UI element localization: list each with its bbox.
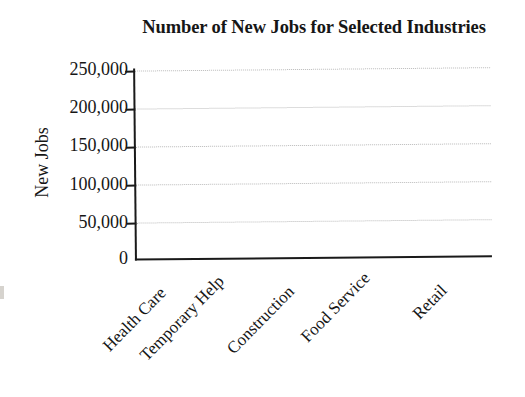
scan-artifact [0,286,4,299]
x-axis-tick-labels: Health Care Temporary Help Construction … [0,0,525,397]
x-tick-label-retail: Retail [409,281,450,322]
x-tick-label-temporary-help: Temporary Help [137,272,227,364]
x-tick-label-construction: Construction [224,283,298,358]
plot-wrapper: Health Care Temporary Help Construction … [0,0,525,397]
x-tick-label-food-service: Food Service [298,269,373,345]
chart-figure: Number of New Jobs for Selected Industri… [0,0,525,397]
